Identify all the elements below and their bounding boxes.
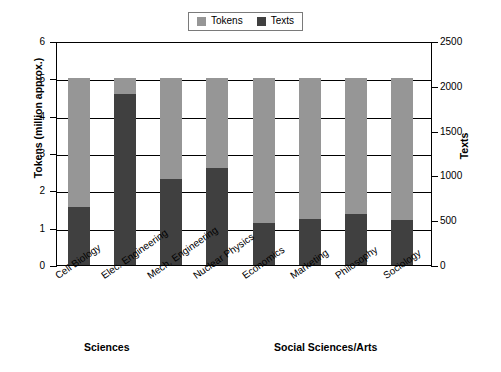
group-label-social-sciences-arts: Social Sciences/Arts xyxy=(274,341,377,353)
right-tick-1500 xyxy=(432,132,438,133)
bar-segment-tokens xyxy=(299,78,321,219)
bar-segment-texts xyxy=(391,220,413,265)
bar-segment-texts xyxy=(68,207,90,265)
bar-cell-biology xyxy=(68,78,90,265)
bar-segment-texts xyxy=(345,214,367,265)
bar-segment-texts xyxy=(253,223,275,265)
legend-entry-texts: Texts xyxy=(257,15,294,27)
left-tick-5 xyxy=(50,79,56,80)
right-ticklabel-2500: 2500 xyxy=(440,37,482,47)
bar-series-group xyxy=(57,43,431,265)
bar-elec-engineering xyxy=(114,78,136,265)
left-ticklabel-0: 0 xyxy=(5,261,45,271)
bar-nuclear-physics xyxy=(206,78,228,265)
right-tick-2500 xyxy=(432,42,438,43)
plot-area xyxy=(57,42,431,266)
left-ticklabel-1: 1 xyxy=(5,224,45,234)
bar-mech-engineering xyxy=(160,78,182,265)
right-tick-1000 xyxy=(432,176,438,177)
right-ticklabel-0: 0 xyxy=(440,261,482,271)
right-axis-spine xyxy=(431,42,432,267)
bar-segment-tokens xyxy=(68,78,90,206)
bar-segment-tokens xyxy=(391,78,413,219)
right-tick-500 xyxy=(432,221,438,222)
bar-segment-texts xyxy=(160,179,182,265)
left-tick-4 xyxy=(50,117,56,118)
bar-sociology xyxy=(391,78,413,265)
right-tick-2000 xyxy=(432,87,438,88)
bar-philosophy xyxy=(345,78,367,265)
chart-legend: Tokens Texts xyxy=(188,12,303,31)
left-tick-3 xyxy=(50,154,56,155)
right-tick-0 xyxy=(432,266,438,267)
left-tick-2 xyxy=(50,191,56,192)
bar-segment-texts xyxy=(206,168,228,265)
left-axis-title: Tokens (million approx.) xyxy=(32,18,44,218)
legend-entry-tokens: Tokens xyxy=(197,15,243,27)
bar-segment-texts xyxy=(299,219,321,265)
left-tick-0 xyxy=(50,266,56,267)
legend-label-tokens: Tokens xyxy=(211,15,243,27)
bar-marketing xyxy=(299,78,321,265)
bar-segment-tokens xyxy=(114,78,136,94)
group-label-sciences: Sciences xyxy=(84,341,130,353)
bar-segment-texts xyxy=(114,94,136,265)
left-tick-6 xyxy=(50,42,56,43)
legend-label-texts: Texts xyxy=(271,15,294,27)
texts-swatch-icon xyxy=(257,17,266,26)
right-ticklabel-500: 500 xyxy=(440,216,482,226)
bar-economics xyxy=(253,78,275,265)
chart-container: Tokens Texts xyxy=(0,0,501,372)
bar-segment-tokens xyxy=(206,78,228,168)
left-tick-1 xyxy=(50,229,56,230)
bar-segment-tokens xyxy=(160,78,182,179)
bar-segment-tokens xyxy=(253,78,275,222)
bar-segment-tokens xyxy=(345,78,367,214)
right-axis-title: Texts xyxy=(458,86,470,206)
tokens-swatch-icon xyxy=(197,17,206,26)
